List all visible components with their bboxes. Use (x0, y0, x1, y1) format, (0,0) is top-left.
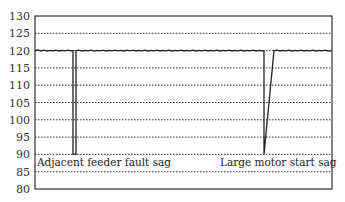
y-tick-120: 120 (9, 45, 30, 58)
y-tick-85: 85 (16, 166, 30, 179)
y-tick-100: 100 (9, 114, 30, 127)
y-tick-125: 125 (9, 27, 30, 40)
y-tick-110: 110 (9, 79, 30, 92)
annotation-large-motor-start-sag: Large motor start sag (220, 156, 337, 168)
y-tick-105: 105 (9, 97, 30, 110)
y-tick-90: 90 (16, 148, 30, 161)
y-tick-115: 115 (9, 62, 30, 75)
annotation-adjacent-feeder-fault-sag: Adjacent feeder fault sag (36, 156, 171, 168)
gridlines (35, 33, 332, 171)
y-tick-95: 95 (16, 131, 30, 144)
y-tick-130: 130 (9, 10, 30, 23)
y-axis-labels: 130 125 120 115 110 105 100 95 90 85 80 (9, 10, 30, 196)
voltage-sag-chart: 130 125 120 115 110 105 100 95 90 85 80 … (0, 0, 345, 202)
y-tick-80: 80 (16, 183, 30, 196)
